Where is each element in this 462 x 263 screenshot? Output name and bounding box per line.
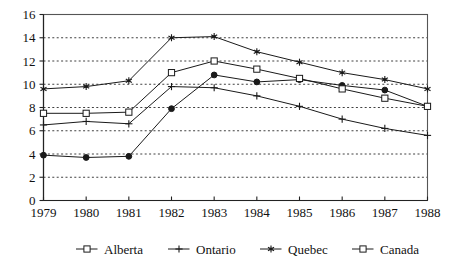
datapoint-canada-1982 — [168, 70, 174, 76]
y-axis-label-10: 10 — [23, 77, 36, 92]
x-axis-label-1979: 1979 — [31, 205, 57, 220]
datapoint-alberta-1983 — [211, 72, 217, 78]
x-axis-label-1984: 1984 — [244, 205, 271, 220]
x-axis-label-1982: 1982 — [159, 205, 185, 220]
y-axis-label-6: 6 — [29, 123, 36, 138]
datapoint-alberta-1982 — [169, 106, 175, 112]
datapoint-canada-1988 — [424, 103, 430, 109]
legend-label-canada: Canada — [380, 242, 419, 257]
x-axis-label-1980: 1980 — [73, 205, 99, 220]
y-axis-label-2: 2 — [29, 170, 36, 185]
datapoint-alberta-1987 — [382, 87, 388, 93]
datapoint-canada-1980 — [83, 110, 89, 116]
legend-label-ontario: Ontario — [196, 242, 236, 257]
datapoint-canada-1987 — [382, 95, 388, 101]
datapoint-alberta-1984 — [254, 79, 260, 85]
datapoint-alberta-1980 — [83, 155, 89, 161]
y-axis-label-8: 8 — [29, 100, 36, 115]
chart-background — [0, 0, 462, 263]
legend-label-alberta: Alberta — [104, 242, 143, 257]
datapoint-canada-1979 — [40, 110, 46, 116]
x-axis-label-1985: 1985 — [287, 205, 313, 220]
datapoint-canada-1985 — [296, 75, 302, 81]
y-axis-label-12: 12 — [23, 54, 36, 69]
datapoint-canada-1986 — [339, 86, 345, 92]
datapoint-alberta-1981 — [126, 153, 132, 159]
x-axis-label-1983: 1983 — [201, 205, 227, 220]
line-chart: 0246810121416 19791980198119821983198419… — [0, 0, 462, 263]
datapoint-alberta-1979 — [41, 152, 47, 158]
x-axis-label-1986: 1986 — [329, 205, 356, 220]
x-axis-label-1988: 1988 — [415, 205, 441, 220]
legend-marker-canada — [360, 246, 366, 252]
x-axis-label-1981: 1981 — [116, 205, 142, 220]
chart-container: 0246810121416 19791980198119821983198419… — [0, 0, 462, 263]
y-axis-label-16: 16 — [23, 7, 37, 22]
legend-marker-alberta — [84, 246, 90, 252]
y-axis-label-14: 14 — [23, 30, 37, 45]
datapoint-canada-1984 — [254, 66, 260, 72]
x-axis-label-1987: 1987 — [372, 205, 399, 220]
datapoint-canada-1983 — [211, 58, 217, 64]
legend-label-quebec: Quebec — [288, 242, 328, 257]
y-axis-label-4: 4 — [29, 147, 36, 162]
datapoint-canada-1981 — [126, 109, 132, 115]
